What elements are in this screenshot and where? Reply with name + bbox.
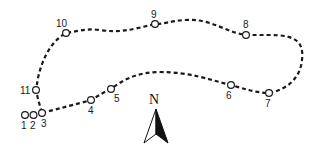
station-4: 4 xyxy=(88,97,95,116)
station-2: 2 xyxy=(30,112,37,131)
station-8: 8 xyxy=(243,19,250,38)
station-9: 9 xyxy=(151,9,158,27)
station-label: 11 xyxy=(20,85,31,96)
station-label: 5 xyxy=(114,93,120,104)
dashed-route-path xyxy=(36,20,302,113)
station-3: 3 xyxy=(39,110,47,129)
station-label: 1 xyxy=(21,120,27,131)
station-label: 6 xyxy=(226,90,232,101)
station-11: 11 xyxy=(20,85,39,96)
station-6: 6 xyxy=(226,82,234,101)
station-label: 4 xyxy=(88,105,94,116)
station-label: 10 xyxy=(56,18,68,29)
station-label: 3 xyxy=(41,118,47,129)
station-label: 9 xyxy=(151,9,157,20)
north-arrow-icon xyxy=(144,109,168,143)
station-label: 8 xyxy=(243,19,249,30)
station-label: 7 xyxy=(265,98,271,109)
station-7: 7 xyxy=(265,90,272,109)
station-10: 10 xyxy=(56,18,69,36)
station-1: 1 xyxy=(21,112,28,131)
station-label: 2 xyxy=(30,120,36,131)
route-diagram: 1 2 3 4 5 6 7 8 9 10 11 N xyxy=(0,0,326,155)
compass-north-label: N xyxy=(149,92,159,107)
station-5: 5 xyxy=(108,86,120,104)
compass: N xyxy=(144,92,168,143)
